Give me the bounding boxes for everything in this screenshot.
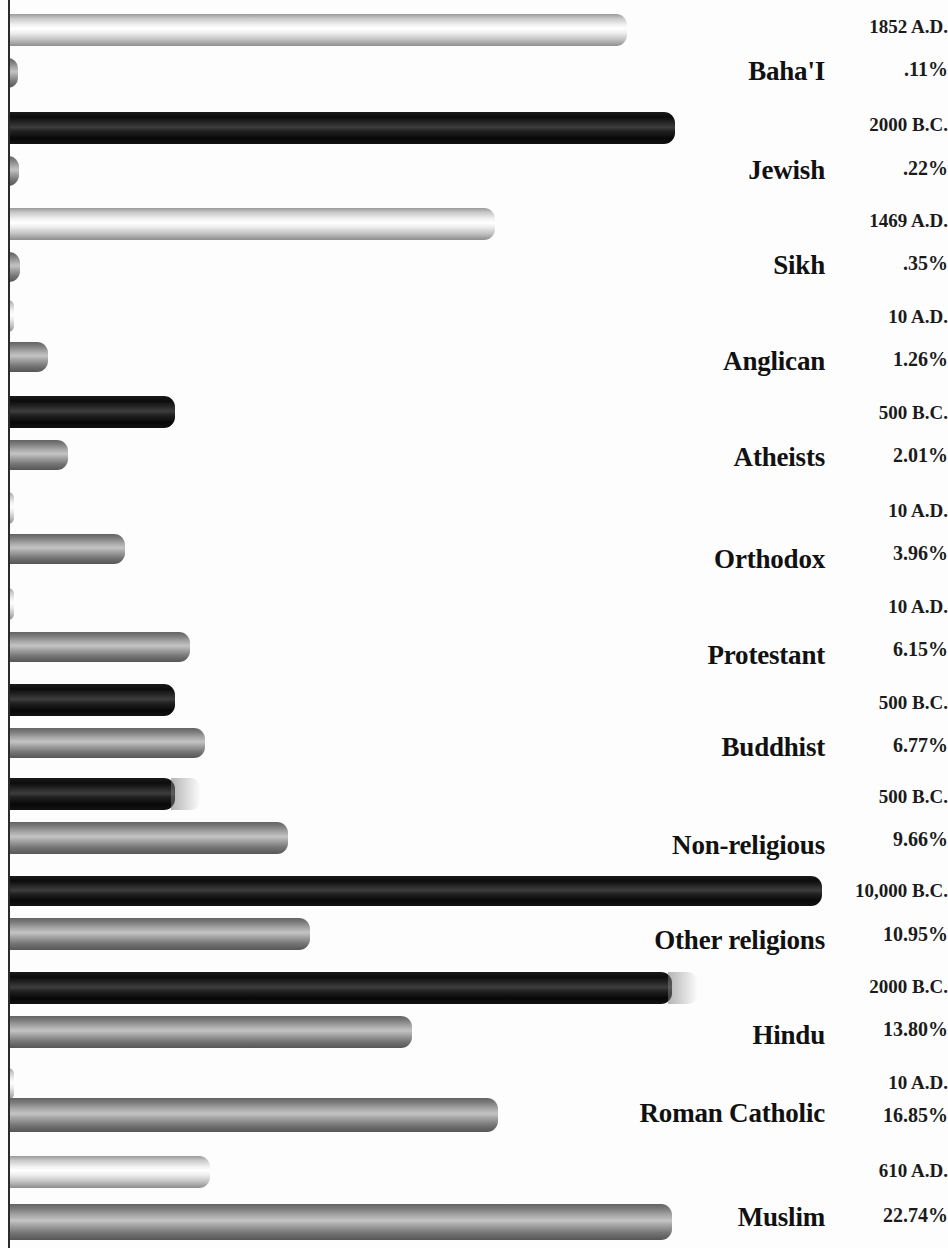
category-label: Anglican (560, 346, 825, 377)
category-label: Muslim (560, 1202, 825, 1233)
founding-date-value: 10 A.D. (832, 306, 948, 328)
category-label: Orthodox (560, 544, 825, 575)
bar-population-share (8, 342, 48, 372)
population-share-value: .35% (832, 252, 948, 275)
category-label: Baha'I (560, 56, 825, 87)
category-label: Atheists (560, 442, 825, 473)
founding-date-value: 10 A.D. (832, 1072, 948, 1094)
founding-date-value: 500 B.C. (832, 692, 948, 714)
population-share-value: .11% (832, 58, 948, 81)
bar-founding-date (8, 14, 627, 46)
bar-founding-date (8, 208, 495, 240)
population-share-value: 22.74% (832, 1204, 948, 1227)
bar-population-share (8, 534, 125, 564)
founding-date-value: 1469 A.D. (832, 210, 948, 232)
population-share-value: 9.66% (832, 828, 948, 851)
bar-population-share (8, 1098, 498, 1132)
founding-date-value: 610 A.D. (832, 1160, 948, 1182)
population-share-value: 10.95% (832, 923, 948, 946)
bar-founding-date (8, 778, 175, 810)
population-share-value: 1.26% (832, 348, 948, 371)
population-share-value: 2.01% (832, 444, 948, 467)
population-share-value: .22% (832, 157, 948, 180)
category-label: Buddhist (560, 732, 825, 763)
bar-founding-date (8, 684, 175, 716)
population-share-value: 16.85% (832, 1104, 948, 1127)
population-share-value: 3.96% (832, 542, 948, 565)
bar-founding-date (8, 112, 675, 144)
category-label: Jewish (560, 155, 825, 186)
founding-date-value: 500 B.C. (832, 786, 948, 808)
religion-bar-chart: Baha'I1852 A.D..11%Jewish2000 B.C..22%Si… (0, 0, 948, 1248)
category-label: Other religions (560, 925, 825, 956)
founding-date-value: 2000 B.C. (832, 976, 948, 998)
bar-population-share (8, 918, 310, 950)
founding-date-value: 10 A.D. (832, 596, 948, 618)
founding-date-value: 1852 A.D. (832, 16, 948, 38)
founding-date-value: 2000 B.C. (832, 114, 948, 136)
bar-founding-date (8, 396, 175, 428)
population-share-value: 13.80% (832, 1018, 948, 1041)
category-axis-line (8, 0, 10, 1248)
bar-founding-date (8, 1156, 210, 1188)
category-label: Sikh (560, 250, 825, 281)
bar-population-share (8, 728, 205, 758)
population-share-value: 6.77% (832, 734, 948, 757)
bar-population-share (8, 822, 288, 854)
bar-population-share (8, 1016, 412, 1048)
bar-population-share (8, 632, 190, 662)
category-label: Hindu (560, 1020, 825, 1051)
category-label: Protestant (560, 640, 825, 671)
bar-founding-date (8, 972, 672, 1004)
bar-population-share (8, 440, 68, 470)
category-label: Roman Catholic (560, 1098, 825, 1129)
population-share-value: 6.15% (832, 638, 948, 661)
founding-date-value: 10 A.D. (832, 500, 948, 522)
founding-date-value: 10,000 B.C. (832, 880, 948, 902)
category-label: Non-religious (560, 830, 825, 861)
founding-date-value: 500 B.C. (832, 402, 948, 424)
bar-founding-date (8, 876, 822, 906)
plot-area (0, 0, 830, 1248)
